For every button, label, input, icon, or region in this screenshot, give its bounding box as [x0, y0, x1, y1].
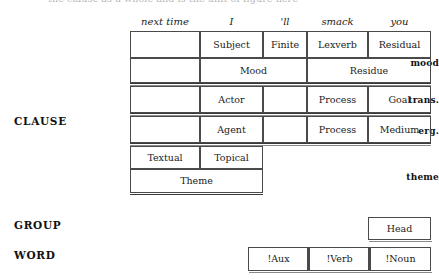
- word-cell-aux: !Aux: [248, 247, 309, 271]
- clause-word-0: next time: [130, 16, 200, 27]
- stratum-label-clause: CLAUSE: [14, 115, 67, 127]
- section-rule-mood: [130, 83, 431, 84]
- ergativity-cell-medium: Medium: [368, 116, 431, 143]
- mood-span-empty: [130, 58, 200, 83]
- clause-word-1: I: [200, 16, 263, 27]
- section-rule-group-second: [369, 241, 432, 242]
- transitivity-cell-0: [130, 86, 200, 113]
- stratum-label-word: WORD: [14, 249, 56, 261]
- clause-word-2: 'll: [263, 16, 307, 27]
- word-cell-noun: !Noun: [370, 247, 431, 271]
- mood-span-mood: Mood: [200, 58, 307, 83]
- section-rule-theme: [130, 194, 263, 195]
- word-cell-verb: !Verb: [309, 247, 370, 271]
- clause-word-3: smack: [307, 16, 368, 27]
- transitivity-cell-process: Process: [307, 86, 368, 113]
- ergativity-cell-0: [130, 116, 200, 143]
- row-label-theme: theme: [314, 172, 439, 182]
- word-divider-2: [368, 247, 369, 271]
- clause-word-4: you: [368, 16, 431, 27]
- transitivity-cell-2: [263, 86, 307, 113]
- stratum-label-group: GROUP: [14, 219, 61, 231]
- mood-cell-residual: Residual: [368, 31, 431, 58]
- mood-cell-subject: Subject: [200, 31, 263, 58]
- word-divider-1: [307, 247, 308, 271]
- group-cell-head: Head: [368, 217, 431, 240]
- ergativity-cell-agent: Agent: [200, 116, 263, 143]
- mood-cell-lexverb: Lexverb: [307, 31, 368, 58]
- theme-cell-textual: Textual: [130, 146, 200, 169]
- ergativity-cell-process: Process: [307, 116, 368, 143]
- section-rule-ergativity: [130, 143, 431, 144]
- section-rule-transitivity: [130, 113, 431, 114]
- transitivity-cell-goal: Goal: [368, 86, 431, 113]
- mood-span-residue: Residue: [307, 58, 431, 83]
- mood-cell-finite: Finite: [263, 31, 307, 58]
- clause-text-header: next time I 'll smack you: [130, 16, 431, 30]
- theme-span-theme: Theme: [130, 169, 263, 193]
- section-rule-word-second: [249, 272, 432, 273]
- theme-cell-topical: Topical: [200, 146, 263, 169]
- clipped-text-fragment: the clause as a whole and is the unit of…: [48, 0, 388, 5]
- ergativity-cell-2: [263, 116, 307, 143]
- mood-cell-0: [130, 31, 200, 58]
- transitivity-cell-actor: Actor: [200, 86, 263, 113]
